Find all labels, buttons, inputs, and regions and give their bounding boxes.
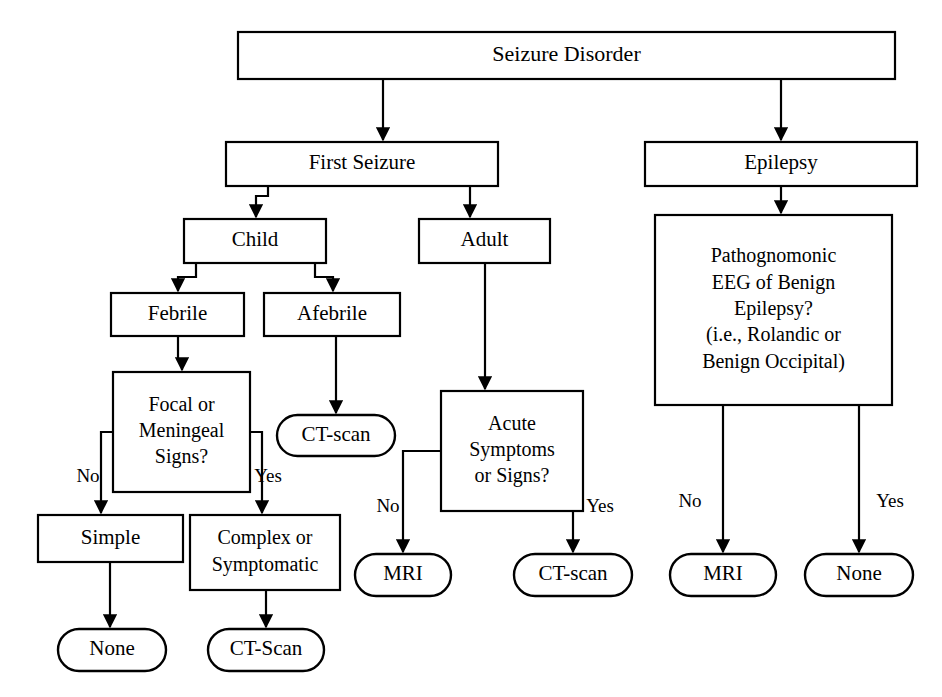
edge-acute-no bbox=[403, 451, 441, 552]
edge-label-label-yes-eeg: Yes bbox=[876, 490, 904, 511]
node-label-seizure-disorder: Seizure Disorder bbox=[492, 41, 641, 66]
node-label-adult: Adult bbox=[461, 227, 509, 251]
node-label-febrile: Febrile bbox=[148, 300, 207, 324]
node-label-none-simple: None bbox=[89, 636, 135, 660]
node-label-ct-scan-afebrile: CT-scan bbox=[301, 421, 371, 445]
node-mri-adult: MRI bbox=[355, 554, 451, 596]
node-label-ct-scan-adult: CT-scan bbox=[538, 561, 608, 585]
node-focal-meningeal-signs: Focal orMeningealSigns? bbox=[113, 372, 250, 492]
edge-label-label-no-acute: No bbox=[376, 495, 399, 516]
flowchart-canvas: Seizure DisorderFirst SeizureEpilepsyChi… bbox=[0, 0, 942, 697]
node-seizure-disorder: Seizure Disorder bbox=[238, 32, 895, 79]
node-label-mri-epilepsy: MRI bbox=[703, 561, 743, 585]
edge-child-to-febrile bbox=[178, 263, 196, 291]
node-label-mri-adult: MRI bbox=[383, 561, 423, 585]
node-label-none-epilepsy: None bbox=[836, 561, 882, 585]
nodes-layer: Seizure DisorderFirst SeizureEpilepsyChi… bbox=[38, 32, 917, 671]
flowchart-diagram: Seizure DisorderFirst SeizureEpilepsyChi… bbox=[0, 0, 942, 697]
edge-label-label-no-eeg: No bbox=[678, 490, 701, 511]
node-first-seizure: First Seizure bbox=[226, 142, 498, 186]
edge-febrile-to-focal bbox=[178, 336, 182, 370]
node-child: Child bbox=[184, 219, 326, 263]
node-label-simple: Simple bbox=[81, 524, 141, 548]
edge-first-to-child bbox=[256, 186, 268, 217]
node-label-afebrile: Afebrile bbox=[297, 300, 367, 324]
edge-label-label-no-focal: No bbox=[76, 465, 99, 486]
node-afebrile: Afebrile bbox=[264, 293, 400, 336]
edge-label-label-yes-focal: Yes bbox=[254, 465, 282, 486]
node-complex-symptomatic: Complex orSymptomatic bbox=[190, 515, 340, 590]
node-acute-symptoms-signs: AcuteSymptomsor Signs? bbox=[441, 391, 583, 511]
node-none-epilepsy: None bbox=[805, 554, 913, 596]
edge-label-label-yes-acute: Yes bbox=[586, 495, 614, 516]
node-none-simple: None bbox=[58, 629, 166, 671]
node-label-child: Child bbox=[232, 227, 279, 251]
node-mri-epilepsy: MRI bbox=[670, 554, 776, 596]
node-pathognomonic-eeg: PathognomonicEEG of BenignEpilepsy?(i.e.… bbox=[655, 215, 892, 405]
edge-child-to-afebrile bbox=[315, 263, 333, 291]
node-label-first-seizure: First Seizure bbox=[309, 150, 416, 174]
node-ct-scan-afebrile: CT-scan bbox=[277, 415, 395, 456]
edge-focal-no bbox=[101, 432, 113, 513]
node-adult: Adult bbox=[419, 219, 550, 263]
node-simple: Simple bbox=[38, 515, 183, 562]
node-label-epilepsy: Epilepsy bbox=[744, 150, 818, 174]
node-febrile: Febrile bbox=[111, 293, 244, 336]
node-epilepsy: Epilepsy bbox=[645, 142, 917, 186]
node-label-ct-scan-complex: CT-Scan bbox=[230, 636, 303, 660]
node-ct-scan-complex: CT-Scan bbox=[208, 629, 324, 671]
node-ct-scan-adult: CT-scan bbox=[514, 554, 632, 596]
